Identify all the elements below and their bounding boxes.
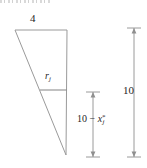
triangle-shape (15, 30, 67, 155)
dimension-line-middle-top-arrowhead (91, 92, 96, 98)
dimension-line-right-bottom-arrowhead (132, 152, 137, 158)
label-inner-segment-subscript: j (49, 75, 51, 83)
label-middle-dimension-prefix: 10 − (77, 113, 98, 124)
label-middle-dimension: 10 − x*j (77, 114, 105, 126)
dimension-line-middle-bottom-arrowhead (91, 152, 96, 158)
label-top-width: 4 (30, 13, 36, 24)
triangle-outline (15, 30, 67, 155)
label-right-dimension: 10 (123, 85, 134, 96)
scan-artifact-strip (0, 0, 52, 3)
label-inner-segment: rj (45, 71, 51, 83)
label-middle-dimension-subscript: j (103, 118, 105, 126)
dimension-line-right-top-arrowhead (132, 28, 137, 34)
